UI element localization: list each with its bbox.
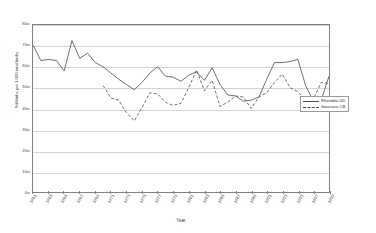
x-axis-tick-label: 1969 [92, 194, 100, 204]
series-line-rhondda-ud [33, 41, 329, 102]
legend-swatch-dashed [303, 105, 319, 109]
legend-label: Swansea CB [321, 105, 345, 109]
x-axis-tick-label: 1989 [249, 194, 257, 204]
y-axis-tick-labels: 01020304050607080 [0, 24, 30, 193]
x-axis-tick-label: 1983 [202, 194, 210, 204]
y-axis-tick-mark [27, 129, 30, 130]
legend-label: Rhondda UD [321, 99, 345, 103]
x-axis-tick-label: 1985 [218, 194, 226, 204]
chart-legend: Rhondda UDSwansea CB [300, 96, 349, 112]
plot-area [32, 24, 330, 193]
y-axis-tick-mark [27, 45, 30, 46]
x-axis-title: Year [32, 219, 330, 224]
legend-swatch-solid [303, 99, 319, 103]
y-axis-tick-mark [27, 193, 30, 194]
y-axis-tick-mark [27, 171, 30, 172]
x-axis-tick-label: 1993 [280, 194, 288, 204]
legend-item: Swansea CB [303, 105, 345, 109]
x-axis-tick-label: 1967 [76, 194, 84, 204]
y-axis-tick-mark [27, 66, 30, 67]
y-axis-tick-mark [27, 108, 30, 109]
x-axis-tick-label: 1999 [327, 194, 335, 204]
x-axis-tick-label: 1979 [170, 194, 178, 204]
x-axis-tick-label: 1963 [45, 194, 53, 204]
x-axis-tick-label: 1995 [296, 194, 304, 204]
x-axis-tick-labels: 1961196319651967196919711973197519771979… [32, 194, 330, 218]
x-axis-tick-label: 1961 [29, 194, 37, 204]
y-axis-tick-mark [27, 87, 30, 88]
legend-item: Rhondda UD [303, 99, 345, 103]
x-axis-tick-label: 1973 [123, 194, 131, 204]
x-axis-tick-label: 1987 [233, 194, 241, 204]
x-axis-tick-label: 1977 [155, 194, 163, 204]
series-lines [33, 25, 329, 192]
y-axis-tick-mark [27, 24, 30, 25]
x-axis-tick-label: 1991 [265, 194, 273, 204]
x-axis-tick-label: 1965 [61, 194, 69, 204]
chart-figure: Stillbirths per 1,000 total births 01020… [0, 0, 376, 233]
x-axis-tick-label: 1981 [186, 194, 194, 204]
x-axis-tick-label: 1997 [312, 194, 320, 204]
x-axis-tick-label: 1975 [139, 194, 147, 204]
x-axis-tick-label: 1971 [108, 194, 116, 204]
y-axis-tick-mark [27, 150, 30, 151]
series-line-swansea-cb [103, 70, 329, 121]
